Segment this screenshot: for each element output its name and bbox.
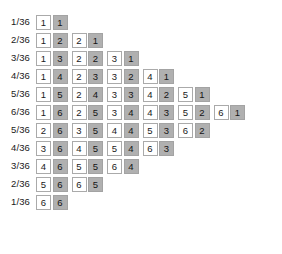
second-die-cell: 5 (88, 159, 103, 174)
dice-pair: 21 (72, 33, 105, 48)
second-die-cell: 4 (53, 69, 68, 84)
dice-pair: 36 (36, 141, 69, 156)
dice-pair-group: 132231 (36, 51, 140, 66)
first-die-cell: 1 (36, 87, 51, 102)
dice-pair: 51 (178, 87, 211, 102)
first-die-cell: 6 (36, 195, 51, 210)
second-die-cell: 3 (159, 141, 174, 156)
probability-row: 5/362635445362 (0, 121, 247, 139)
dice-pair-group: 2635445362 (36, 123, 211, 138)
dice-pair-group: 5665 (36, 177, 105, 192)
first-die-cell: 2 (72, 69, 87, 84)
second-die-cell: 1 (88, 33, 103, 48)
dice-pair: 41 (143, 69, 176, 84)
second-die-cell: 4 (124, 105, 139, 120)
second-die-cell: 5 (88, 177, 103, 192)
first-die-cell: 4 (36, 159, 51, 174)
second-die-cell: 4 (88, 87, 103, 102)
second-die-cell: 2 (88, 51, 103, 66)
dice-pair: 14 (36, 69, 69, 84)
second-die-cell: 1 (159, 69, 174, 84)
probability-row: 3/36465564 (0, 157, 247, 175)
first-die-cell: 6 (107, 159, 122, 174)
first-die-cell: 4 (143, 69, 158, 84)
second-die-cell: 1 (195, 87, 210, 102)
dice-pair-group: 465564 (36, 159, 140, 174)
dice-probability-chart: 1/36112/3612213/361322314/36142332415/36… (0, 0, 282, 254)
dice-pair: 56 (36, 177, 69, 192)
second-die-cell: 3 (53, 51, 68, 66)
dice-pair: 24 (72, 87, 105, 102)
dice-pair: 25 (72, 105, 105, 120)
first-die-cell: 6 (178, 123, 193, 138)
dice-pair: 61 (214, 105, 247, 120)
dice-pair: 35 (72, 123, 105, 138)
first-die-cell: 5 (178, 105, 193, 120)
probability-row: 1/3666 (0, 193, 247, 211)
first-die-cell: 2 (72, 51, 87, 66)
dice-pair-group: 66 (36, 195, 69, 210)
second-die-cell: 2 (124, 69, 139, 84)
dice-pair-group: 1524334251 (36, 87, 211, 102)
dice-pair: 65 (72, 177, 105, 192)
second-die-cell: 2 (159, 87, 174, 102)
first-die-cell: 3 (107, 69, 122, 84)
second-die-cell: 5 (88, 105, 103, 120)
probability-row: 2/361221 (0, 31, 247, 49)
first-die-cell: 3 (107, 51, 122, 66)
probability-label: 1/36 (0, 13, 30, 31)
second-die-cell: 5 (88, 141, 103, 156)
dice-pair: 31 (107, 51, 140, 66)
first-die-cell: 4 (72, 141, 87, 156)
dice-pair: 53 (143, 123, 176, 138)
probability-label: 2/36 (0, 175, 30, 193)
first-die-cell: 3 (107, 105, 122, 120)
second-die-cell: 1 (230, 105, 245, 120)
probability-row: 6/36162534435261 (0, 103, 247, 121)
first-die-cell: 4 (143, 105, 158, 120)
first-die-cell: 4 (107, 123, 122, 138)
first-die-cell: 5 (72, 159, 87, 174)
dice-pair: 43 (143, 105, 176, 120)
probability-row: 4/3614233241 (0, 67, 247, 85)
dice-pair: 34 (107, 105, 140, 120)
probability-label: 3/36 (0, 157, 30, 175)
first-die-cell: 1 (36, 105, 51, 120)
second-die-cell: 2 (53, 33, 68, 48)
probability-label: 2/36 (0, 31, 30, 49)
probability-row: 2/365665 (0, 175, 247, 193)
probability-row: 3/36132231 (0, 49, 247, 67)
first-die-cell: 1 (36, 69, 51, 84)
second-die-cell: 6 (53, 195, 68, 210)
probability-label: 4/36 (0, 67, 30, 85)
first-die-cell: 3 (72, 123, 87, 138)
first-die-cell: 1 (36, 51, 51, 66)
dice-pair: 66 (36, 195, 69, 210)
dice-pair: 15 (36, 87, 69, 102)
dice-pair: 11 (36, 15, 69, 30)
second-die-cell: 1 (53, 15, 68, 30)
dice-pair-group: 11 (36, 15, 69, 30)
first-die-cell: 3 (36, 141, 51, 156)
dice-pair: 44 (107, 123, 140, 138)
probability-row: 5/361524334251 (0, 85, 247, 103)
second-die-cell: 3 (159, 123, 174, 138)
second-die-cell: 3 (88, 69, 103, 84)
dice-pair: 13 (36, 51, 69, 66)
probability-label: 3/36 (0, 49, 30, 67)
first-die-cell: 2 (72, 87, 87, 102)
second-die-cell: 1 (124, 51, 139, 66)
first-die-cell: 5 (178, 87, 193, 102)
dice-pair-group: 162534435261 (36, 105, 247, 120)
probability-label: 4/36 (0, 139, 30, 157)
dice-pair: 26 (36, 123, 69, 138)
first-die-cell: 2 (72, 105, 87, 120)
dice-pair: 23 (72, 69, 105, 84)
second-die-cell: 6 (53, 105, 68, 120)
dice-pair: 62 (178, 123, 211, 138)
dice-pair: 33 (107, 87, 140, 102)
first-die-cell: 4 (143, 87, 158, 102)
second-die-cell: 4 (124, 141, 139, 156)
first-die-cell: 6 (214, 105, 229, 120)
dice-pair: 64 (107, 159, 140, 174)
